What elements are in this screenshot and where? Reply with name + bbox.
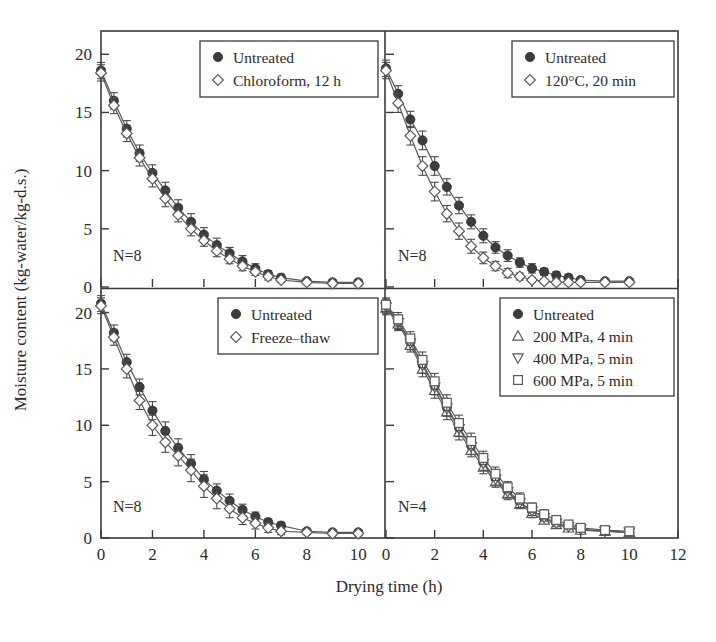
legend-top-right: Untreated120°C, 20 min	[512, 41, 674, 97]
y-tick-label: 15	[75, 103, 92, 122]
marker-filled-circle	[491, 243, 500, 252]
y-tick-label: 0	[84, 529, 93, 548]
legend-label: 200 MPa, 4 min	[533, 328, 633, 345]
marker-open-diamond	[527, 275, 538, 286]
marker-open-diamond	[502, 268, 513, 279]
marker-open-diamond	[539, 276, 550, 287]
legend-label: Untreated	[533, 306, 594, 323]
legend-bottom-right: Untreated200 MPa, 4 min400 MPa, 5 min600…	[500, 298, 674, 396]
legend-label: Chloroform, 12 h	[233, 72, 341, 89]
legend-label: 120°C, 20 min	[545, 72, 636, 89]
x-tick-label: 10	[350, 545, 367, 564]
legend-label: Untreated	[251, 306, 312, 323]
marker-open-square	[430, 377, 439, 386]
legend-label: Untreated	[545, 49, 606, 66]
x-axis-bottom-right: 024681012	[382, 530, 687, 564]
marker-filled-circle	[418, 136, 427, 145]
marker-open-square	[514, 376, 523, 385]
marker-filled-circle	[231, 309, 240, 318]
marker-open-square	[625, 527, 634, 536]
marker-open-square	[564, 520, 573, 529]
marker-filled-circle	[479, 231, 488, 240]
legend-label: 400 MPa, 5 min	[533, 350, 633, 367]
marker-open-diamond	[405, 130, 416, 141]
x-tick-label: 10	[621, 545, 638, 564]
legend-label: Freeze–thaw	[251, 329, 331, 346]
marker-filled-circle	[454, 201, 463, 210]
y-tick-label: 20	[75, 45, 92, 64]
marker-open-diamond	[147, 420, 158, 431]
marker-filled-circle	[406, 115, 415, 124]
legend-top-left: UntreatedChloroform, 12 h	[200, 41, 378, 97]
marker-filled-circle	[515, 258, 524, 267]
marker-open-square	[479, 454, 488, 463]
x-tick-label: 0	[382, 545, 391, 564]
marker-open-square	[576, 523, 585, 532]
n-label-bottom-left: N=8	[113, 498, 142, 515]
marker-open-square	[442, 398, 451, 407]
y-tick-label: 10	[75, 162, 92, 181]
y-tick-label: 10	[75, 416, 92, 435]
x-tick-label: 2	[430, 545, 439, 564]
x-tick-label: 4	[479, 545, 488, 564]
marker-filled-circle	[467, 217, 476, 226]
marker-open-square	[418, 355, 427, 364]
marker-open-square	[382, 300, 391, 309]
marker-filled-circle	[503, 251, 512, 260]
n-label-top-left: N=8	[113, 247, 142, 264]
y-tick-label: 5	[84, 220, 93, 239]
marker-open-square	[528, 503, 537, 512]
marker-open-diamond	[237, 512, 248, 523]
marker-open-diamond	[224, 503, 235, 514]
marker-filled-circle	[430, 161, 439, 170]
marker-open-diamond	[441, 208, 452, 219]
y-axis-top-left: 05101520	[75, 45, 109, 297]
marker-filled-circle	[513, 309, 522, 318]
marker-filled-circle	[213, 52, 222, 61]
marker-open-square	[503, 483, 512, 492]
x-tick-label: 12	[670, 545, 687, 564]
marker-filled-circle	[135, 382, 144, 391]
x-tick-label: 4	[200, 545, 209, 564]
y-axis-bottom-left: 05101520	[75, 304, 109, 548]
y-axis-title: Moisture content (kg-water/kg-d.s.)	[11, 169, 30, 412]
x-tick-label: 8	[303, 545, 312, 564]
x-tick-label: 0	[97, 545, 106, 564]
y-tick-label: 15	[75, 360, 92, 379]
marker-open-square	[406, 334, 415, 343]
marker-open-square	[515, 494, 524, 503]
y-tick-label: 5	[84, 473, 93, 492]
marker-open-square	[455, 419, 464, 428]
marker-open-diamond	[490, 261, 501, 272]
marker-filled-circle	[527, 264, 536, 273]
marker-open-diamond	[417, 161, 428, 172]
marker-filled-circle	[442, 182, 451, 191]
legend-label: Untreated	[233, 49, 294, 66]
x-tick-label: 6	[251, 545, 260, 564]
legend-bottom-left: UntreatedFreeze–thaw	[218, 298, 378, 354]
marker-open-diamond	[429, 186, 440, 197]
marker-open-square	[601, 526, 610, 535]
marker-open-diamond	[393, 98, 404, 109]
x-tick-label: 2	[148, 545, 157, 564]
y-tick-label: 20	[75, 304, 92, 323]
x-axis-title: Drying time (h)	[336, 577, 443, 596]
n-label-bottom-right: N=4	[398, 498, 427, 515]
n-label-top-right: N=8	[398, 247, 427, 264]
y-axis-ticks-bottom-right	[386, 313, 394, 538]
legend-label: 600 MPa, 5 min	[533, 372, 633, 389]
marker-open-square	[394, 315, 403, 324]
marker-filled-circle	[148, 406, 157, 415]
drying-curves-figure: 05101520051015200246810024681012Drying t…	[0, 0, 716, 642]
marker-open-square	[467, 437, 476, 446]
figure-container: 05101520051015200246810024681012Drying t…	[0, 0, 716, 642]
marker-open-square	[540, 510, 549, 519]
x-axis-bottom-left: 0246810	[97, 530, 367, 564]
x-tick-label: 6	[528, 545, 537, 564]
marker-open-diamond	[134, 395, 145, 406]
marker-open-square	[552, 516, 561, 525]
x-tick-label: 8	[576, 545, 585, 564]
marker-open-square	[491, 469, 500, 478]
y-tick-label: 0	[84, 278, 93, 297]
marker-filled-circle	[525, 52, 534, 61]
